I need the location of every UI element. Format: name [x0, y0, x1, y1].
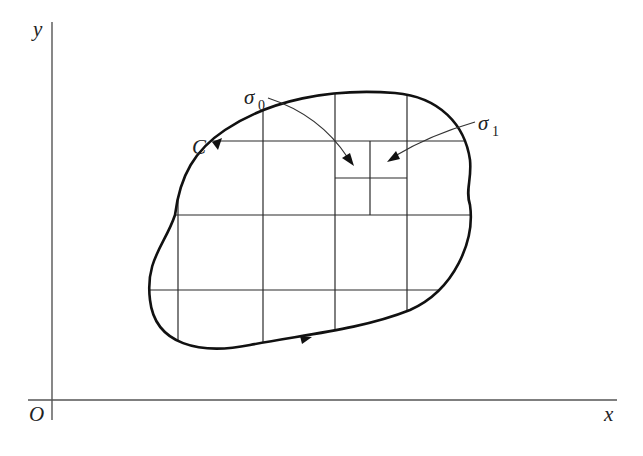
curve-label-c: C: [192, 135, 207, 159]
sigma-1-annotation: σ 1: [387, 111, 499, 162]
subdivision-grid: [120, 60, 500, 380]
axes: y x O: [28, 17, 617, 426]
sigma-0-annotation: σ 0: [244, 85, 354, 166]
sigma-0-subscript: 0: [258, 98, 265, 113]
sigma-1-subscript: 1: [492, 124, 499, 139]
x-axis-label: x: [603, 402, 614, 426]
sigma-0-arrowhead: [342, 153, 354, 166]
sigma-1-symbol: σ: [478, 111, 490, 135]
sigma-0-symbol: σ: [244, 85, 256, 109]
sigma-1-arrowhead: [387, 151, 400, 162]
region-diagram: y x O C σ 0 σ 1: [0, 0, 643, 456]
sigma-0-pointer: [268, 98, 348, 158]
origin-label: O: [29, 402, 44, 426]
y-axis-label: y: [31, 17, 43, 41]
curve-direction-arrow-bottom: [300, 336, 312, 344]
boundary-curve-c: [149, 92, 471, 349]
